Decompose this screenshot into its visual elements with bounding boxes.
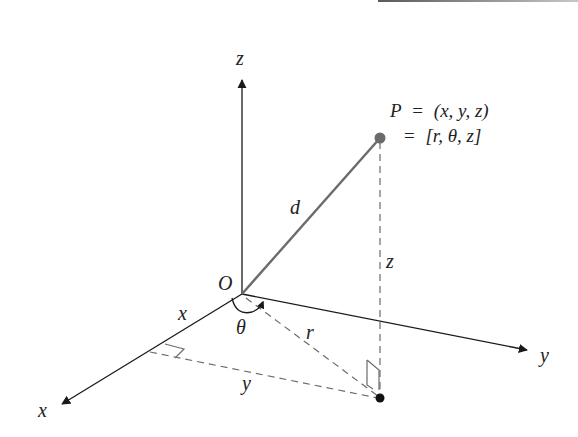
cylindrical-coordinates-diagram: z x y d z r y x θ O P = (x, y, z) bbox=[0, 0, 578, 437]
dashed-r bbox=[246, 298, 378, 396]
svg-text:= [r, θ, z]: = [r, θ, z] bbox=[404, 125, 481, 146]
point-P-name: P bbox=[389, 100, 402, 121]
cartesian-coordinates: (x, y, z) bbox=[434, 100, 489, 122]
point-projection bbox=[376, 394, 385, 403]
dashed-y-component bbox=[150, 352, 378, 398]
x-axis-label: x bbox=[37, 399, 47, 421]
label-x-component: x bbox=[177, 302, 187, 324]
y-axis bbox=[242, 294, 527, 350]
equals-sign-1: = bbox=[412, 100, 423, 121]
y-axis-label: y bbox=[538, 344, 549, 367]
label-d: d bbox=[290, 196, 301, 218]
point-P-coordinates: P = (x, y, z) = [r, θ, z] bbox=[389, 100, 489, 146]
label-z-height: z bbox=[385, 250, 394, 272]
label-theta: θ bbox=[236, 316, 246, 338]
theta-arc bbox=[232, 298, 263, 313]
origin-label: O bbox=[218, 272, 232, 294]
x-axis bbox=[62, 294, 242, 404]
equals-sign-2: = bbox=[404, 125, 415, 146]
label-r: r bbox=[306, 321, 314, 343]
cylindrical-coordinates: [r, θ, z] bbox=[425, 125, 481, 146]
svg-text:P = (x, y, z): P = (x, y, z) bbox=[389, 100, 489, 122]
z-axis-label: z bbox=[235, 47, 244, 69]
label-y-component: y bbox=[240, 372, 251, 395]
segment-d bbox=[242, 138, 380, 294]
point-P bbox=[375, 133, 386, 144]
